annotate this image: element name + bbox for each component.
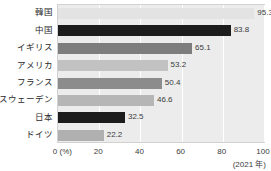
- bar-value-label: 83.8: [234, 24, 250, 36]
- bar-chart: 韓国中国イギリスアメリカフランススウェーデン日本ドイツ 95.383.865.1…: [0, 0, 271, 171]
- bar-value-label: 65.1: [195, 42, 211, 54]
- category-label: 中国: [35, 21, 53, 38]
- bar-value-label: 95.3: [257, 7, 271, 19]
- category-label: スウェーデン: [0, 91, 53, 108]
- category-label: 韓国: [35, 4, 53, 21]
- bar-row: 22.2: [58, 127, 264, 144]
- bar-value-label: 53.2: [171, 59, 187, 71]
- bar-row: 83.8: [58, 22, 264, 39]
- bar: [58, 8, 254, 19]
- year-annotation: (2021 年): [233, 158, 266, 169]
- bar-value-label: 46.6: [157, 94, 173, 106]
- category-label: ドイツ: [26, 126, 53, 143]
- category-label: フランス: [17, 74, 53, 91]
- bar: [58, 112, 125, 123]
- bar: [58, 25, 231, 36]
- plot-area: 95.383.865.153.250.446.632.522.2: [57, 4, 265, 143]
- bar: [58, 130, 104, 141]
- bar: [58, 95, 154, 106]
- bar-row: 32.5: [58, 109, 264, 126]
- bar-value-label: 32.5: [128, 111, 144, 123]
- category-label: アメリカ: [17, 56, 53, 73]
- category-label: イギリス: [17, 39, 53, 56]
- x-tick-label: 20: [94, 147, 103, 157]
- bar-value-label: 50.4: [165, 77, 181, 89]
- x-tick-label: 60: [176, 147, 185, 157]
- bar-row: 95.3: [58, 5, 264, 22]
- bar-row: 50.4: [58, 75, 264, 92]
- x-tick-label: 40: [135, 147, 144, 157]
- bar: [58, 78, 162, 89]
- bar: [58, 43, 192, 54]
- gridline: [264, 5, 265, 142]
- x-tick-label: 80: [217, 147, 226, 157]
- x-tick-label: 100: [256, 147, 269, 157]
- category-axis-labels: 韓国中国イギリスアメリカフランススウェーデン日本ドイツ: [0, 4, 55, 143]
- bar: [58, 60, 168, 71]
- bar-value-label: 22.2: [107, 129, 123, 141]
- x-tick-label: 0 (%): [53, 147, 72, 157]
- bar-rows: 95.383.865.153.250.446.632.522.2: [58, 5, 264, 142]
- bar-row: 65.1: [58, 40, 264, 57]
- bar-row: 53.2: [58, 57, 264, 74]
- bar-row: 46.6: [58, 92, 264, 109]
- category-label: 日本: [35, 108, 53, 125]
